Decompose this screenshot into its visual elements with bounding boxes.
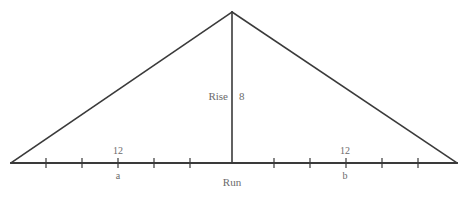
rise-value-label: 8 [239, 91, 245, 102]
rise-label: Rise [188, 91, 228, 102]
left-slope-line [11, 12, 232, 163]
segment-b-name-label: b [325, 171, 365, 181]
run-label: Run [202, 177, 262, 188]
right-slope-line [232, 12, 457, 163]
segment-a-name-label: a [98, 171, 138, 181]
segment-a-value-label: 12 [98, 146, 138, 156]
triangle-diagram-canvas [0, 0, 469, 204]
segment-b-value-label: 12 [325, 146, 365, 156]
rise-run-triangle-diagram: Rise 8 Run 12 a 12 b [0, 0, 469, 204]
triangle-outline [11, 12, 457, 163]
